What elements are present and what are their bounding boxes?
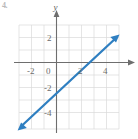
- coordinate-plane-svg: y -2 0 2 4 2 -2 -4: [0, 0, 138, 139]
- x-tick-label-4: 4: [103, 66, 108, 76]
- x-tick-label-2: 2: [78, 66, 83, 76]
- y-tick-label--4: -4: [44, 108, 52, 118]
- x-axis-arrowhead: [128, 60, 135, 66]
- y-tick-label-2: 2: [47, 33, 52, 43]
- plotted-line: [18, 35, 120, 131]
- x-tick-label-0: 0: [46, 66, 51, 76]
- y-tick-label--2: -2: [44, 83, 52, 93]
- graph-figure: 4.: [0, 0, 138, 139]
- y-axis-label: y: [53, 2, 58, 12]
- x-tick-label--2: -2: [27, 66, 35, 76]
